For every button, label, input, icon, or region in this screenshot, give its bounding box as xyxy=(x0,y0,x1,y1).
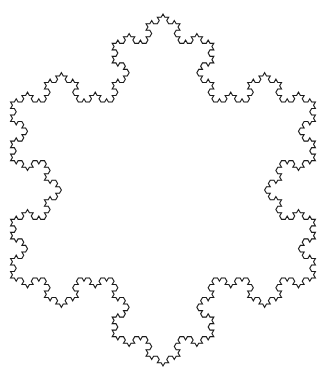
koch-snowflake-figure xyxy=(0,0,325,385)
background xyxy=(0,0,325,385)
